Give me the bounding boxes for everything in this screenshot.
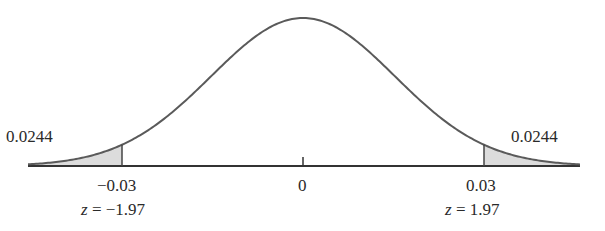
- left-tick-label: −0.03: [97, 177, 136, 194]
- normal-curve-chart: [0, 0, 605, 231]
- left-z-label: z = −1.97: [81, 201, 145, 218]
- z-symbol: z: [445, 200, 452, 219]
- z-symbol: z: [81, 200, 88, 219]
- left-z-value: = −1.97: [88, 200, 145, 219]
- normal-curve: [28, 18, 580, 164]
- center-tick-label: 0: [298, 177, 307, 194]
- right-tick-label: 0.03: [466, 177, 496, 194]
- right-tail-area-label: 0.0244: [511, 128, 558, 145]
- left-tail-area-label: 0.0244: [6, 128, 53, 145]
- right-z-value: = 1.97: [452, 200, 500, 219]
- right-z-label: z = 1.97: [445, 201, 499, 218]
